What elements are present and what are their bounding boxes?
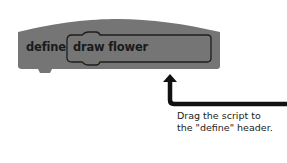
arrow-up-icon <box>163 74 287 104</box>
instruction-line-1: Drag the script to <box>177 110 273 122</box>
instruction-line-2: the "define" header. <box>177 122 273 134</box>
define-keyword: define <box>26 40 66 54</box>
procedure-name: draw flower <box>73 40 148 54</box>
instruction-text: Drag the script to the "define" header. <box>177 110 273 134</box>
define-block-shape <box>0 0 287 163</box>
